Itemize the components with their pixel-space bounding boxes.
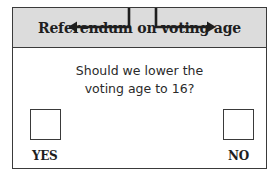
arrow-right-icon [156, 8, 216, 33]
arrows-diagram [13, 8, 268, 170]
arrow-left-icon [68, 8, 129, 33]
yes-checkbox[interactable] [30, 109, 61, 140]
ballot-paper: Referendum on voting age Should we lower… [12, 7, 267, 169]
yes-label: YES [32, 149, 57, 163]
no-label: NO [228, 149, 249, 163]
no-checkbox[interactable] [223, 109, 254, 140]
